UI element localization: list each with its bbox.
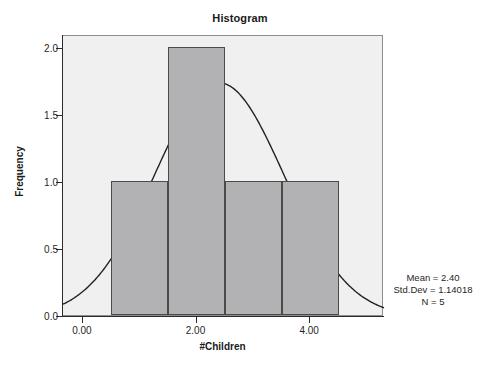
x-axis-tick [196,317,197,323]
x-axis-tick-label: 2.00 [166,325,226,336]
histogram-bar [282,181,339,315]
x-axis-title: #Children [62,341,383,352]
bars-layer [63,36,382,315]
chart-title: Histogram [0,12,480,24]
histogram-bar [225,181,282,315]
x-axis-tick [82,317,83,323]
y-axis-tick-label: 0.5 [18,244,58,255]
plot-area [62,35,383,316]
histogram-bar [168,47,225,315]
sample-size-label: N = 5 [386,296,480,308]
x-axis-tick-label: 0.00 [52,325,112,336]
x-axis-tick-label: 4.00 [279,325,339,336]
y-axis-title: Frequency [14,117,25,227]
mean-label: Mean = 2.40 [386,272,480,284]
y-axis-tick-label: 2.0 [18,43,58,54]
stddev-label: Std.Dev = 1.14018 [386,284,480,296]
x-axis-tick [309,317,310,323]
histogram-chart: Histogram 0.00.51.01.52.0 0.002.004.00 #… [0,0,480,366]
x-axis-line [62,316,384,317]
histogram-bar [111,181,168,315]
y-axis-line [62,35,63,317]
statistics-annotation: Mean = 2.40 Std.Dev = 1.14018 N = 5 [386,272,480,308]
y-axis-tick-label: 0.0 [18,311,58,322]
